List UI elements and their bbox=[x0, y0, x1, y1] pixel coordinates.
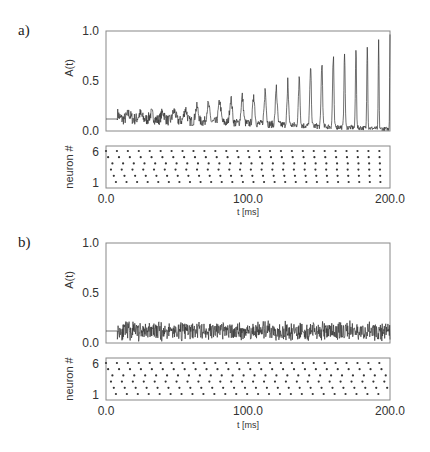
spike-dot bbox=[241, 175, 243, 177]
spike-dot bbox=[274, 381, 276, 383]
spike-dot bbox=[350, 381, 352, 383]
spike-dot bbox=[207, 169, 209, 171]
spike-dot bbox=[134, 175, 136, 177]
spike-dot bbox=[282, 368, 284, 370]
x-axis-label: t [ms] bbox=[237, 207, 259, 217]
spike-dot bbox=[172, 156, 174, 158]
spike-dot bbox=[216, 368, 218, 370]
spike-dot bbox=[205, 156, 207, 158]
spike-dot bbox=[335, 150, 337, 152]
spike-dot bbox=[198, 175, 200, 177]
spike-dot bbox=[145, 175, 147, 177]
spike-dot bbox=[302, 150, 304, 152]
spike-dot bbox=[372, 381, 374, 383]
spike-dot bbox=[160, 150, 162, 152]
spike-dot bbox=[270, 156, 272, 158]
spike-dot bbox=[323, 393, 325, 395]
spike-dot bbox=[336, 169, 338, 171]
spike-dot bbox=[192, 362, 194, 364]
spike-dot bbox=[203, 150, 205, 152]
spike-dot bbox=[344, 393, 346, 395]
xtick-label: 100.0 bbox=[233, 404, 263, 418]
spike-dot bbox=[147, 181, 149, 183]
spike-dot bbox=[230, 175, 232, 177]
spike-dot bbox=[143, 162, 145, 164]
spike-dot bbox=[378, 362, 380, 364]
spike-dot bbox=[314, 169, 316, 171]
spike-dot bbox=[135, 387, 137, 389]
spike-dot bbox=[379, 181, 381, 183]
spike-dot bbox=[281, 156, 283, 158]
spike-dot bbox=[132, 381, 134, 383]
spike-dot bbox=[368, 169, 370, 171]
y-axis-label: neuron # bbox=[63, 144, 75, 188]
spike-dot bbox=[341, 374, 343, 376]
spike-dot bbox=[248, 156, 250, 158]
spike-dots bbox=[105, 150, 382, 183]
figure-canvas: 1.0 0.5 0.0 A(t) 6 1 neuron # 0.0 100.0 … bbox=[0, 0, 430, 452]
spike-dot bbox=[292, 156, 294, 158]
spike-dot bbox=[218, 162, 220, 164]
activity-plot-b: 1.0 0.5 0.0 A(t) bbox=[63, 236, 390, 350]
spike-dot bbox=[224, 393, 226, 395]
spike-dot bbox=[161, 156, 163, 158]
spike-dot bbox=[357, 169, 359, 171]
spike-dot bbox=[304, 368, 306, 370]
spike-dot bbox=[186, 381, 188, 383]
spike-dot bbox=[279, 393, 281, 395]
spike-dot bbox=[214, 150, 216, 152]
spike-dot bbox=[168, 181, 170, 183]
spike-dot bbox=[264, 374, 266, 376]
activity-trace bbox=[106, 34, 390, 130]
spike-dot bbox=[374, 374, 376, 376]
spike-dot bbox=[320, 387, 322, 389]
spike-dot bbox=[274, 181, 276, 183]
spike-dot bbox=[326, 181, 328, 183]
spike-dot bbox=[330, 374, 332, 376]
spike-dot bbox=[313, 362, 315, 364]
ytick-label: 1 bbox=[92, 176, 99, 190]
spike-dot bbox=[241, 381, 243, 383]
spike-dot bbox=[136, 181, 138, 183]
spike-dot bbox=[386, 387, 388, 389]
spike-dot bbox=[348, 181, 350, 183]
spike-dot bbox=[192, 150, 194, 152]
raster-plot-b: 6 1 neuron # 0.0 100.0 200.0 t [ms] bbox=[63, 356, 405, 430]
spike-dot bbox=[247, 362, 249, 364]
spike-dot bbox=[127, 362, 129, 364]
spike-dot bbox=[231, 181, 233, 183]
spike-dot bbox=[162, 368, 164, 370]
spike-dot bbox=[219, 175, 221, 177]
xtick-label: 0.0 bbox=[98, 404, 115, 418]
spike-dot bbox=[115, 393, 117, 395]
spike-dot bbox=[143, 381, 145, 383]
raster-plot-a: 6 1 neuron # 0.0 100.0 200.0 t [ms] bbox=[63, 144, 405, 217]
ytick-label: 1.0 bbox=[82, 236, 99, 250]
spike-dot bbox=[113, 175, 115, 177]
spike-dot bbox=[146, 387, 148, 389]
spike-dot bbox=[177, 374, 179, 376]
spike-dots bbox=[105, 362, 388, 395]
spike-dot bbox=[187, 175, 189, 177]
spike-dot bbox=[209, 175, 211, 177]
spike-dot bbox=[197, 381, 199, 383]
spike-dot bbox=[171, 150, 173, 152]
spike-dot bbox=[299, 387, 301, 389]
spike-dot bbox=[173, 368, 175, 370]
spike-dot bbox=[199, 374, 201, 376]
spike-dot bbox=[280, 362, 282, 364]
spike-dot bbox=[138, 150, 140, 152]
spike-dot bbox=[194, 156, 196, 158]
spike-dot bbox=[261, 162, 263, 164]
spike-dot bbox=[221, 374, 223, 376]
spike-dot bbox=[124, 387, 126, 389]
spike-dot bbox=[269, 362, 271, 364]
spike-dot bbox=[148, 393, 150, 395]
spike-dot bbox=[326, 368, 328, 370]
spike-dot bbox=[356, 362, 358, 364]
spike-dot bbox=[195, 368, 197, 370]
spike-dot bbox=[380, 368, 382, 370]
spike-dot bbox=[137, 393, 139, 395]
spike-dot bbox=[250, 169, 252, 171]
spike-dot bbox=[189, 181, 191, 183]
